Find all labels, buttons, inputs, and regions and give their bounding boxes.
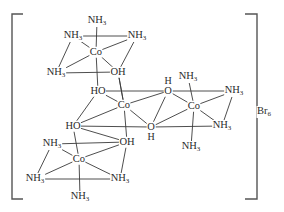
counter-ion-subscript: 6	[268, 110, 272, 118]
atom-subscript: 3	[240, 89, 244, 97]
ammine-ligand-label: NH3	[87, 15, 107, 27]
atom-symbol: Co	[188, 100, 200, 111]
atom-symbol: HO	[90, 85, 105, 96]
right-bracket	[245, 14, 257, 199]
hydrogen-label: H	[164, 76, 171, 86]
atom-symbol: OH	[110, 66, 125, 77]
ammine-ligand-label: NH3	[181, 141, 201, 153]
cobalt-atom-label: Co	[187, 101, 200, 112]
atom-symbol: NH	[47, 66, 62, 77]
atom-symbol: NH	[128, 29, 143, 40]
atom-subscript: 3	[143, 34, 147, 42]
atom-subscript: 3	[62, 71, 66, 79]
cobalt-atom-label: Co	[72, 154, 85, 165]
cobalt-atom-label: Co	[117, 100, 130, 111]
atom-symbol: NH	[182, 140, 197, 151]
hydroxo-ligand-label: OH	[119, 137, 135, 148]
atom-subscript: 3	[194, 75, 198, 83]
atom-subscript: 3	[41, 177, 45, 185]
atom-symbol: NH	[43, 137, 58, 148]
atom-subscript: 3	[228, 124, 232, 132]
ammine-ligand-label: NH3	[63, 30, 83, 42]
atom-subscript: 3	[58, 142, 62, 150]
ammine-ligand-label: NH3	[46, 67, 66, 79]
ammine-ligand-label: NH3	[25, 173, 45, 185]
bond-line	[73, 126, 151, 127]
ammine-ligand-label: NH3	[110, 173, 130, 185]
counter-ion-label: Br6	[257, 106, 272, 118]
cobalt-atom-label: Co	[89, 47, 102, 58]
left-bracket	[12, 14, 23, 199]
atom-subscript: 3	[197, 145, 201, 153]
hydroxo-ligand-label: HO	[90, 86, 106, 97]
atom-symbol: NH	[213, 119, 228, 130]
atom-symbol: NH	[88, 14, 103, 25]
ammine-ligand-label: NH3	[70, 191, 90, 203]
bond-line	[52, 142, 127, 144]
atom-symbol: NH	[111, 172, 126, 183]
counter-ion-symbol: Br	[257, 105, 268, 116]
atom-symbol: HO	[65, 120, 80, 131]
atom-subscript: 3	[126, 177, 130, 185]
atom-symbol: Co	[73, 153, 85, 164]
atom-subscript: 3	[79, 34, 83, 42]
hydroxo-ligand-label: OH	[110, 67, 126, 78]
atom-symbol: NH	[179, 70, 194, 81]
hydrogen-label: H	[147, 132, 154, 142]
atom-symbol: NH	[26, 172, 41, 183]
atom-symbol: O	[164, 85, 172, 96]
ammine-ligand-label: NH3	[224, 85, 244, 97]
atom-symbol: OH	[119, 136, 134, 147]
ammine-ligand-label: NH3	[42, 138, 62, 150]
atom-symbol: NH	[225, 84, 240, 95]
atom-symbol: NH	[71, 190, 86, 201]
ammine-ligand-label: NH3	[127, 30, 147, 42]
atom-symbol: Co	[118, 99, 130, 110]
ammine-ligand-label: NH3	[212, 120, 232, 132]
ammine-ligand-label: NH3	[178, 71, 198, 83]
hydroxo-ligand-label: O	[164, 86, 173, 97]
atom-subscript: 3	[86, 195, 90, 203]
chemical-structure-diagram: CoNH3NH3NH3NH3OHCoHOHOOOCoNH3NH3NH3NH3Co…	[0, 0, 284, 212]
hydroxo-ligand-label: HO	[65, 121, 81, 132]
atom-symbol: NH	[64, 29, 79, 40]
atom-subscript: 3	[103, 19, 107, 27]
atom-symbol: Co	[90, 46, 102, 57]
